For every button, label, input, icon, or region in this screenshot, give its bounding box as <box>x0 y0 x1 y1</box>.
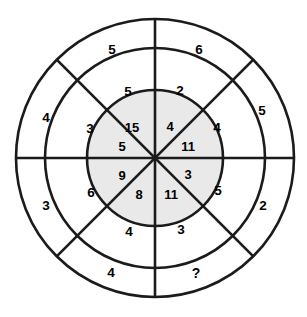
cell-inner-sse: 11 <box>164 187 178 202</box>
puzzle-container: 15 4 11 3 11 8 9 5 5 2 4 5 3 4 6 3 5 6 5… <box>0 0 307 317</box>
cell-outer-wsw: 3 <box>42 198 50 213</box>
cell-middle-ese: 5 <box>214 183 222 198</box>
cell-middle-ssw: 4 <box>125 224 133 239</box>
cell-inner-ese: 3 <box>184 167 191 182</box>
cell-outer-wnw: 4 <box>42 110 50 125</box>
cell-inner-nnw: 15 <box>125 120 139 135</box>
cell-middle-sse: 3 <box>177 222 185 237</box>
cell-inner-wnw: 5 <box>118 139 125 154</box>
cell-outer-ese: 2 <box>259 198 267 213</box>
cell-middle-nne: 2 <box>176 83 184 98</box>
cell-middle-wsw: 6 <box>87 185 95 200</box>
cell-outer-sse-unknown: ? <box>192 265 201 281</box>
cell-inner-ene: 11 <box>181 139 195 154</box>
cell-outer-nnw: 5 <box>108 42 116 57</box>
cell-outer-ssw: 4 <box>107 265 115 280</box>
cell-inner-ssw: 8 <box>135 187 142 202</box>
cell-outer-nne: 6 <box>195 42 203 57</box>
cell-inner-wsw: 9 <box>118 168 125 183</box>
cell-middle-wnw: 3 <box>86 121 94 136</box>
cell-middle-nnw: 5 <box>124 84 132 99</box>
cell-inner-nne: 4 <box>166 119 174 134</box>
cell-outer-ene: 5 <box>258 103 266 118</box>
circular-sector-puzzle-diagram: 15 4 11 3 11 8 9 5 5 2 4 5 3 4 6 3 5 6 5… <box>0 0 307 317</box>
cell-middle-ene: 4 <box>213 120 221 135</box>
